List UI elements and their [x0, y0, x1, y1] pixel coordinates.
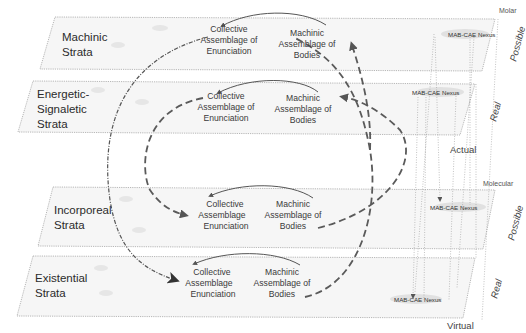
svg-text:Bodies: Bodies — [280, 221, 306, 231]
cae-node-incorporeal: Collective Assemblage Enunciation — [198, 199, 248, 231]
svg-text:Bodies: Bodies — [294, 50, 320, 60]
strata-name-line: Strata — [54, 219, 85, 231]
strata-name-line: Energetic- — [37, 88, 90, 100]
svg-text:Machinic: Machinic — [290, 28, 325, 38]
svg-text:Assemblage of: Assemblage of — [198, 102, 255, 112]
svg-text:Enunciation: Enunciation — [204, 113, 249, 123]
svg-text:Assemblage: Assemblage — [185, 278, 233, 288]
plane-existential — [17, 256, 475, 318]
svg-text:Bodies: Bodies — [290, 115, 316, 125]
svg-text:Enunciation: Enunciation — [204, 221, 249, 231]
svg-text:Assemblage of: Assemblage of — [254, 278, 311, 288]
svg-text:Assemblage: Assemblage — [198, 210, 246, 220]
svg-text:Enunciation: Enunciation — [191, 289, 236, 299]
svg-text:Assemblage of: Assemblage of — [265, 210, 322, 220]
svg-text:Collective: Collective — [193, 267, 230, 277]
actual-label: Actual — [450, 144, 476, 155]
nexus-label-energetic: MAB-CAE Nexus — [412, 89, 459, 96]
nexus-label-existential: MAB-CAE Nexus — [394, 296, 441, 303]
side-label-machinic: Possible — [507, 25, 526, 63]
svg-text:Machinic: Machinic — [286, 93, 321, 103]
svg-text:Assemblage of: Assemblage of — [279, 39, 336, 49]
molar-label: Molar — [499, 7, 517, 14]
side-label-incorporeal: Possible — [505, 204, 525, 242]
strata-name-line: Strata — [35, 287, 66, 299]
nexus-label-machinic: MAB-CAE Nexus — [448, 31, 495, 38]
plane-machinic — [40, 17, 495, 71]
svg-text:Assemblage of: Assemblage of — [201, 35, 258, 45]
strata-name-line: Strata — [37, 118, 68, 130]
side-label-energetic: Real — [487, 100, 503, 123]
strata-name-line: Machinic — [62, 31, 108, 43]
strata-diagram: Machinic Strata Energetic- Signaletic St… — [0, 0, 526, 333]
strata-name-line: Strata — [62, 46, 93, 58]
molecular-label: Molecular — [483, 180, 514, 187]
svg-text:Assemblage of: Assemblage of — [275, 104, 332, 114]
svg-text:Enunciation: Enunciation — [207, 46, 252, 56]
svg-text:Machinic: Machinic — [265, 267, 300, 277]
virtual-label: Virtual — [447, 320, 474, 331]
side-label-existential: Real — [488, 277, 504, 300]
nexus-label-incorporeal: MAB-CAE Nexus — [430, 204, 477, 211]
svg-text:Collective: Collective — [206, 199, 243, 209]
cae-node-existential: Collective Assemblage Enunciation — [185, 267, 235, 299]
svg-text:Bodies: Bodies — [269, 289, 295, 299]
svg-text:Collective: Collective — [207, 91, 244, 101]
strata-name-line: Incorporeal — [54, 204, 112, 216]
svg-text:Machinic: Machinic — [276, 199, 311, 209]
svg-text:Collective: Collective — [210, 24, 247, 34]
strata-name-line: Signaletic — [37, 103, 87, 115]
strata-name-line: Existential — [35, 272, 87, 284]
